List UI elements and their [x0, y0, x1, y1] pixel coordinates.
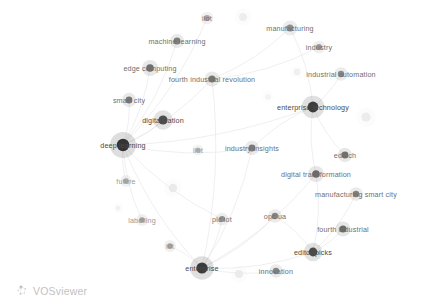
graph-node[interactable]: [201, 12, 214, 25]
graph-node[interactable]: [269, 264, 282, 277]
graph-node-unlabeled[interactable]: [235, 9, 252, 26]
node-layer: [110, 9, 376, 283]
graph-node[interactable]: [304, 243, 322, 261]
graph-edge: [202, 79, 216, 268]
graph-edge: [202, 216, 275, 268]
graph-node[interactable]: [245, 141, 259, 155]
graph-node[interactable]: [349, 187, 362, 200]
graph-node[interactable]: [142, 60, 158, 76]
graph-node-unlabeled[interactable]: [262, 91, 274, 103]
graph-edge: [313, 174, 319, 252]
graph-node[interactable]: [334, 67, 347, 80]
graph-node[interactable]: [302, 96, 325, 119]
graph-node[interactable]: [308, 166, 324, 182]
graph-node-unlabeled[interactable]: [231, 266, 248, 283]
graph-node[interactable]: [110, 132, 136, 158]
graph-node[interactable]: [216, 213, 229, 226]
graph-node[interactable]: [338, 148, 352, 162]
graph-node[interactable]: [204, 71, 219, 86]
graph-node[interactable]: [153, 110, 172, 129]
graph-node[interactable]: [170, 34, 184, 48]
graph-node-unlabeled[interactable]: [164, 179, 182, 197]
vosviewer-map-canvas[interactable]: iiotmanufacturingmachine learningindustr…: [0, 0, 431, 306]
graph-node-unlabeled[interactable]: [113, 203, 124, 214]
edge-layer: [122, 18, 356, 273]
graph-node[interactable]: [193, 145, 204, 156]
graph-node-unlabeled[interactable]: [356, 107, 375, 126]
graph-edge: [313, 194, 356, 252]
graph-edge: [202, 148, 252, 268]
graph-node[interactable]: [190, 256, 214, 280]
graph-node[interactable]: [164, 240, 176, 252]
graph-edge: [212, 28, 290, 79]
graph-node[interactable]: [268, 209, 281, 222]
graph-edge: [123, 145, 202, 268]
graph-edge: [202, 252, 313, 268]
graph-node[interactable]: [136, 214, 148, 226]
graph-node-unlabeled[interactable]: [290, 65, 304, 79]
graph-node[interactable]: [335, 221, 350, 236]
graph-node[interactable]: [282, 20, 297, 35]
graph-node[interactable]: [313, 41, 326, 54]
network-graph: [0, 0, 431, 306]
graph-node[interactable]: [122, 93, 136, 107]
graph-node[interactable]: [120, 175, 132, 187]
graph-edge: [123, 145, 252, 153]
